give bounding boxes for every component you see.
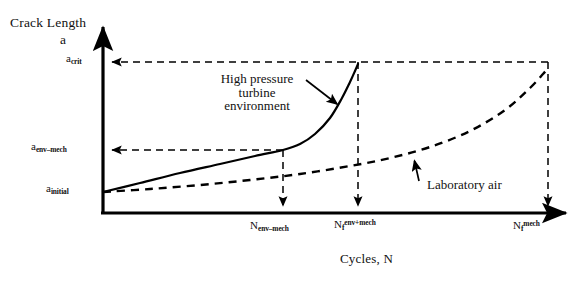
callout-arrow-laboratory-air	[415, 161, 420, 181]
x-tick-nf-env-plus-mech-sup: env+mech	[344, 218, 375, 227]
y-axis-title-line2: a	[60, 33, 66, 47]
x-tick-n-env-mech-sub: env–mech	[258, 224, 289, 233]
y-tick-a-crit: acrit	[66, 53, 82, 65]
annotation-laboratory-air: Laboratory air	[427, 178, 502, 192]
y-tick-a-initial-sub: initial	[51, 187, 69, 196]
annotation-high-pressure-turbine: High pressure turbine environment	[202, 72, 312, 113]
annotation-hpt-line3: environment	[202, 99, 312, 113]
x-tick-nf-env-plus-mech: Nfenv+mech	[334, 219, 376, 231]
x-axis-title: Cycles, N	[340, 252, 393, 266]
plot-canvas	[0, 0, 585, 285]
curve-laboratory-air	[103, 68, 548, 192]
x-tick-nf-mech-base: N	[513, 219, 521, 231]
annotation-hpt-line1: High pressure	[202, 72, 312, 86]
annotation-hpt-line2: turbine	[202, 86, 312, 100]
crack-growth-figure: Crack Length a Cycles, N acrit aenv–mech…	[0, 0, 585, 285]
y-tick-a-crit-sub: crit	[71, 57, 82, 66]
x-tick-n-env-mech: Nenv–mech	[250, 220, 289, 232]
y-tick-a-env-mech: aenv–mech	[31, 141, 67, 153]
x-tick-n-env-mech-base: N	[250, 219, 258, 231]
x-tick-nf-mech-sup: mech	[523, 219, 539, 228]
x-tick-nf-env-plus-mech-base: N	[334, 218, 342, 230]
x-tick-nf-mech: Nfmech	[513, 220, 540, 232]
y-tick-a-initial: ainitial	[46, 183, 69, 195]
y-axis-title-line1: Crack Length	[10, 16, 86, 30]
y-tick-a-env-mech-sub: env–mech	[36, 145, 67, 154]
